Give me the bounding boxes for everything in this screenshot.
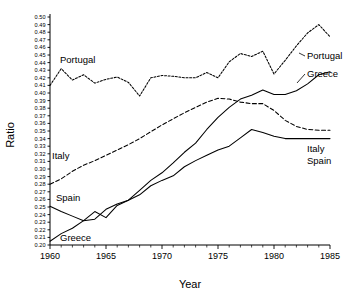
- x-axis-title: Year: [179, 278, 202, 290]
- inline-label-italy: Italy: [52, 150, 70, 161]
- x-tick-label: 1985: [320, 251, 340, 261]
- series-line-italy: [50, 98, 330, 184]
- y-tick-label: 0.28: [35, 181, 46, 187]
- right-label-portugal: Portugal: [307, 50, 342, 61]
- series-line-spain: [50, 129, 330, 220]
- y-tick-label: 0.45: [35, 52, 46, 58]
- x-tick-label: 1960: [40, 251, 60, 261]
- y-tick-label: 0.37: [35, 113, 46, 119]
- x-tick-label: 1980: [264, 251, 284, 261]
- x-tick-label: 1975: [208, 251, 228, 261]
- y-tick-label: 0.47: [35, 37, 46, 43]
- y-tick-label: 0.36: [35, 120, 46, 126]
- y-tick-label: 0.38: [35, 105, 46, 111]
- y-tick-label: 0.22: [35, 227, 46, 233]
- y-axis: 0.200.210.220.230.240.250.260.270.280.29…: [35, 14, 50, 248]
- y-tick-label: 0.50: [35, 14, 46, 20]
- y-tick-label: 0.30: [35, 166, 46, 172]
- y-tick-label: 0.48: [35, 29, 46, 35]
- series-line-greece: [50, 72, 330, 241]
- series-labels: PortugalItalySpainGreecePortugalGreeceIt…: [52, 50, 342, 243]
- y-tick-label: 0.35: [35, 128, 46, 134]
- y-tick-label: 0.27: [35, 189, 46, 195]
- y-tick-label: 0.44: [35, 60, 46, 66]
- y-tick-label: 0.20: [35, 242, 46, 248]
- y-axis-title: Ratio: [4, 122, 16, 148]
- x-tick-label: 1965: [96, 251, 116, 261]
- y-tick-label: 0.33: [35, 143, 46, 149]
- x-tick-label: 1970: [152, 251, 172, 261]
- y-tick-label: 0.43: [35, 67, 46, 73]
- y-tick-label: 0.23: [35, 219, 46, 225]
- line-chart: 0.200.210.220.230.240.250.260.270.280.29…: [0, 0, 358, 300]
- y-tick-label: 0.32: [35, 151, 46, 157]
- y-tick-label: 0.46: [35, 44, 46, 50]
- y-tick-label: 0.34: [35, 136, 46, 142]
- y-tick-label: 0.26: [35, 196, 46, 202]
- right-label-greece: Greece: [307, 68, 338, 79]
- right-label-spain: Spain: [307, 155, 331, 166]
- y-tick-label: 0.49: [35, 22, 46, 28]
- y-tick-label: 0.41: [35, 82, 46, 88]
- label-leader-line: [297, 74, 305, 83]
- label-leader-line: [299, 53, 305, 56]
- y-tick-label: 0.25: [35, 204, 46, 210]
- inline-label-portugal: Portugal: [60, 54, 95, 65]
- y-tick-label: 0.40: [35, 90, 46, 96]
- y-tick-label: 0.29: [35, 174, 46, 180]
- x-axis: 196019651970197519801985: [40, 245, 340, 261]
- y-tick-label: 0.21: [35, 234, 46, 240]
- right-label-italy: Italy: [307, 143, 325, 154]
- inline-label-greece: Greece: [60, 232, 91, 243]
- y-tick-label: 0.31: [35, 158, 46, 164]
- chart-canvas: 0.200.210.220.230.240.250.260.270.280.29…: [0, 0, 358, 300]
- y-tick-label: 0.24: [35, 212, 46, 218]
- y-tick-label: 0.39: [35, 98, 46, 104]
- inline-label-spain: Spain: [56, 192, 80, 203]
- y-tick-label: 0.42: [35, 75, 46, 81]
